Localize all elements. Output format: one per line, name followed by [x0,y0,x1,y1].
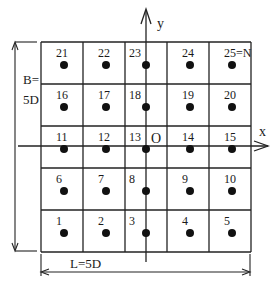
cell-number: 4 [182,214,188,228]
cell-number: 17 [98,88,110,102]
cell-number: 22 [98,46,110,60]
grid-diagram: y x O B= 5D L=5D 2122232425=N16171819201… [0,0,278,288]
width-label: L=5D [70,256,101,271]
pile-dot [60,145,68,153]
cell-number: 20 [224,88,236,102]
cell-number: 10 [224,172,236,186]
cell-number: 7 [98,172,104,186]
pile-dot [228,145,236,153]
pile-dot [142,103,150,111]
pile-dot [186,187,194,195]
pile-dot [102,187,110,195]
pile-dot [142,145,150,153]
pile-dot [102,61,110,69]
cell-number: 24 [182,46,194,60]
cell-number: 8 [129,172,135,186]
cell-number: 23 [129,46,141,60]
cell-number: 5 [224,214,230,228]
pile-dot [228,187,236,195]
cell-number: 9 [182,172,188,186]
pile-dot [60,187,68,195]
cell-number: 19 [182,88,194,102]
y-axis [141,9,151,262]
pile-dot [102,103,110,111]
pile-dot [60,103,68,111]
pile-dot [228,103,236,111]
origin-label: O [151,131,161,146]
cell-number: 3 [129,214,135,228]
cell-number: 18 [129,88,141,102]
x-axis-label: x [259,124,266,139]
cell-number: 15 [224,130,236,144]
y-axis-label: y [157,16,164,31]
cell-number: 14 [182,130,194,144]
pile-dot [228,229,236,237]
pile-dot [186,229,194,237]
pile-dot [186,103,194,111]
pile-dot [186,145,194,153]
cell-number: 2 [98,214,104,228]
cell-number: 11 [56,130,68,144]
pile-dot [102,229,110,237]
pile-dot [60,61,68,69]
cell-number: 6 [56,172,62,186]
pile-dot [142,61,150,69]
cell-number: 13 [129,130,141,144]
height-label-value: 5D [23,92,39,107]
cell-number: 25=N [224,46,252,60]
cell-number: 16 [56,88,68,102]
height-label: B= [23,72,39,87]
pile-dot [142,229,150,237]
cell-number: 12 [98,130,110,144]
cell-number: 21 [56,46,68,60]
pile-dot [186,61,194,69]
pile-dot [142,187,150,195]
pile-dot [228,61,236,69]
pile-dot [60,229,68,237]
pile-dot [102,145,110,153]
cell-number: 1 [56,214,62,228]
